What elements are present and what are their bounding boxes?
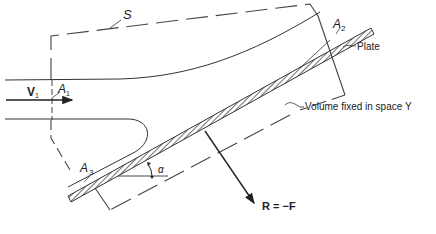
force-label: R = −F <box>262 200 296 212</box>
area1-subscript: 1 <box>66 90 70 97</box>
angle-arc-icon <box>148 164 152 176</box>
volume-label: Volume fixed in space Υ <box>305 101 412 112</box>
angle-arrowhead-down-icon <box>150 176 154 179</box>
volume-leader-line <box>285 103 304 107</box>
force-arrow <box>205 131 254 203</box>
jet-lower-streamline <box>5 119 148 187</box>
plate-label: Plate <box>357 41 380 52</box>
area2-subscript: 2 <box>341 24 346 33</box>
area1-label: A <box>57 82 66 96</box>
diagram-canvas: S V 1 A 1 A 2 A 3 Plate Volume fixed in … <box>0 0 436 234</box>
surface-label: S <box>123 7 132 22</box>
velocity-subscript: 1 <box>35 92 39 99</box>
s-leader-line <box>110 20 121 28</box>
plate <box>68 28 374 202</box>
area3-label: A <box>79 161 88 175</box>
area2-label: A <box>332 17 341 31</box>
angle-label: α <box>158 164 164 175</box>
area3-subscript: 3 <box>89 168 94 177</box>
velocity-label: V <box>27 85 35 99</box>
